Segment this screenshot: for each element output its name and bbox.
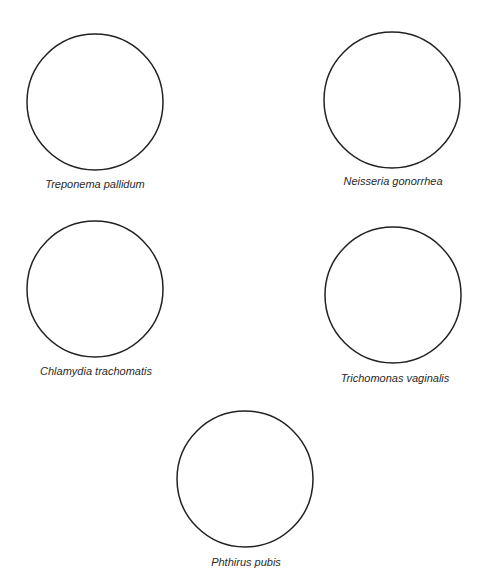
label-phthirus: Phthirus pubis xyxy=(211,557,281,568)
label-trichomonas: Trichomonas vaginalis xyxy=(341,373,450,384)
label-neisseria: Neisseria gonorrhea xyxy=(343,176,442,187)
label-treponema: Treponema pallidum xyxy=(45,179,144,190)
drawing-circle-neisseria xyxy=(324,32,460,168)
drawing-circle-chlamydia xyxy=(27,221,163,357)
drawing-circle-treponema xyxy=(27,34,163,170)
drawing-circle-phthirus xyxy=(177,411,313,547)
diagram-canvas: Treponema pallidum Neisseria gonorrhea C… xyxy=(0,0,488,579)
label-chlamydia: Chlamydia trachomatis xyxy=(40,366,152,377)
drawing-circle-trichomonas xyxy=(325,227,461,363)
drawing-circles xyxy=(0,0,488,579)
